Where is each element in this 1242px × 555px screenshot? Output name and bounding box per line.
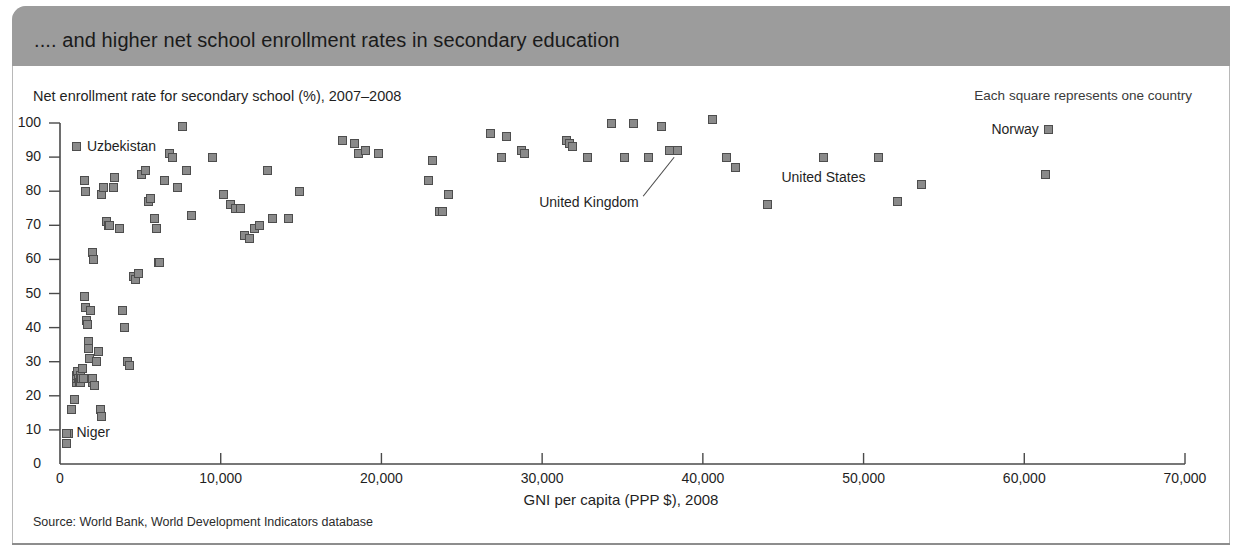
data-point — [708, 115, 717, 124]
x-tick-label-30000: 30,000 — [521, 470, 564, 486]
data-point — [497, 153, 506, 162]
data-point — [263, 166, 272, 175]
data-point — [109, 183, 118, 192]
x-tick-label-10000: 10,000 — [199, 470, 242, 486]
data-point — [81, 187, 90, 196]
data-point — [208, 153, 217, 162]
data-point — [173, 183, 182, 192]
data-point — [236, 204, 245, 213]
data-point — [115, 224, 124, 233]
y-tick-label-60: 60 — [7, 250, 41, 266]
data-point — [134, 269, 143, 278]
data-point — [67, 405, 76, 414]
data-point — [629, 119, 638, 128]
x-tick-label-0: 0 — [56, 470, 64, 486]
data-point-uzbekistan — [72, 142, 81, 151]
x-tick-label-20000: 20,000 — [360, 470, 403, 486]
data-point — [80, 292, 89, 301]
data-point — [874, 153, 883, 162]
data-point — [150, 214, 159, 223]
data-point — [160, 176, 169, 185]
data-point — [90, 381, 99, 390]
y-tick-label-50: 50 — [7, 285, 41, 301]
data-point — [94, 347, 103, 356]
data-point — [110, 173, 119, 182]
annotation-niger: Niger — [76, 424, 109, 440]
x-tick-label-40000: 40,000 — [681, 470, 724, 486]
data-point — [893, 197, 902, 206]
x-tick-label-50000: 50,000 — [842, 470, 885, 486]
data-point — [168, 153, 177, 162]
data-point — [141, 166, 150, 175]
data-point — [80, 176, 89, 185]
annotation-united-states: United States — [781, 169, 865, 185]
y-tick-label-40: 40 — [7, 319, 41, 335]
data-point — [86, 306, 95, 315]
annotation-uzbekistan: Uzbekistan — [87, 138, 156, 154]
data-point — [83, 320, 92, 329]
data-point-united-states — [819, 153, 828, 162]
data-point — [146, 194, 155, 203]
data-point — [295, 187, 304, 196]
data-point — [62, 439, 71, 448]
y-tick-label-100: 100 — [7, 114, 41, 130]
data-point — [120, 323, 129, 332]
data-point — [620, 153, 629, 162]
data-point — [84, 344, 93, 353]
data-point — [89, 255, 98, 264]
data-point — [118, 306, 127, 315]
data-point — [268, 214, 277, 223]
data-point — [361, 146, 370, 155]
chart-page: .... and higher net school enrollment ra… — [0, 0, 1242, 555]
data-point — [105, 221, 114, 230]
data-point — [374, 149, 383, 158]
data-point — [657, 122, 666, 131]
data-point-norway — [1044, 125, 1053, 134]
data-point — [97, 412, 106, 421]
data-point — [731, 163, 740, 172]
plot-overlay: 0102030405060708090100010,00020,00030,00… — [0, 0, 1242, 555]
data-point — [338, 136, 347, 145]
y-tick-label-90: 90 — [7, 148, 41, 164]
data-point — [486, 129, 495, 138]
x-tick-label-60000: 60,000 — [1003, 470, 1046, 486]
data-point — [187, 211, 196, 220]
y-tick-label-30: 30 — [7, 353, 41, 369]
y-tick-label-0: 0 — [7, 455, 41, 471]
data-point — [424, 176, 433, 185]
data-point — [428, 156, 437, 165]
data-point — [568, 142, 577, 151]
data-point — [607, 119, 616, 128]
y-tick-label-20: 20 — [7, 387, 41, 403]
data-point — [219, 190, 228, 199]
data-point — [78, 364, 87, 373]
data-point — [350, 139, 359, 148]
annotation-norway: Norway — [991, 121, 1038, 137]
data-point — [99, 183, 108, 192]
y-tick-label-80: 80 — [7, 182, 41, 198]
y-tick-label-10: 10 — [7, 421, 41, 437]
data-point — [444, 190, 453, 199]
data-point — [245, 234, 254, 243]
data-point — [722, 153, 731, 162]
data-point — [178, 122, 187, 131]
data-point — [92, 357, 101, 366]
x-tick-label-70000: 70,000 — [1164, 470, 1207, 486]
data-point — [152, 224, 161, 233]
data-point — [763, 200, 772, 209]
data-point-niger — [62, 429, 71, 438]
data-point — [70, 395, 79, 404]
annotation-united-kingdom: United Kingdom — [539, 194, 639, 210]
data-point — [125, 361, 134, 370]
data-point — [502, 132, 511, 141]
y-tick-label-70: 70 — [7, 216, 41, 232]
data-point — [520, 149, 529, 158]
data-point — [917, 180, 926, 189]
data-point — [438, 207, 447, 216]
data-point — [284, 214, 293, 223]
data-point — [255, 221, 264, 230]
data-point-united-kingdom — [673, 146, 682, 155]
data-point — [1041, 170, 1050, 179]
data-point — [182, 166, 191, 175]
data-point — [644, 153, 653, 162]
